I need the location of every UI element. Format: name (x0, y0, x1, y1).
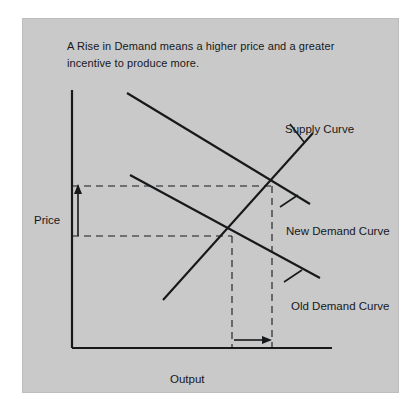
old-demand-curve-label: Old Demand Curve (291, 300, 389, 312)
supply-demand-diagram (22, 18, 399, 393)
new-demand-curve-label: New Demand Curve (286, 225, 390, 237)
y-axis-label: Price (34, 214, 60, 226)
old-equilibrium-guides (72, 236, 232, 348)
supply-curve (163, 133, 313, 300)
x-axis-label: Output (170, 373, 205, 385)
supply-curve-label: Supply Curve (285, 123, 354, 135)
output-rise-arrow (234, 336, 272, 344)
figure-panel: A Rise in Demand means a higher price an… (22, 18, 399, 393)
output-rise-arrow-head (262, 336, 272, 344)
old-demand-label-leader (284, 270, 302, 282)
new-demand-label-leader (280, 195, 298, 207)
new-equilibrium-guides (72, 186, 272, 348)
price-rise-arrow (74, 184, 82, 236)
